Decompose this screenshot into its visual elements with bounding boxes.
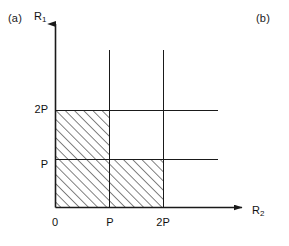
plot-canvas xyxy=(0,0,289,246)
figure-container: (a) (b) R1 R2 2P P 0 P 2P xyxy=(0,0,289,246)
upper-left-hatched-square xyxy=(56,111,110,160)
